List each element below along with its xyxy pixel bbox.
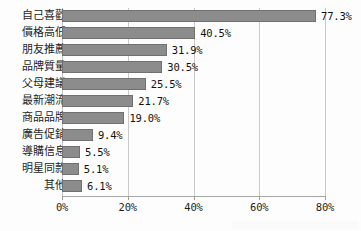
category-label: 最新潮流 [0, 93, 66, 109]
value-label: 5.5% [85, 145, 110, 159]
x-tick-label: 80% [305, 199, 345, 215]
bar-container [62, 10, 316, 22]
bar-container [62, 146, 80, 158]
category-label: 商品品牌 [0, 110, 66, 126]
value-label: 40.5% [200, 26, 231, 40]
category-label: 自己喜歡 [0, 8, 66, 24]
value-label: 21.7% [138, 94, 169, 108]
x-tick-label: 0% [42, 199, 82, 215]
bar-chart: 自己喜歡77.3%價格高低40.5%朋友推薦31.9%品牌質量30.5%父母建議… [0, 0, 361, 231]
bar-row: 價格高低40.5% [0, 25, 361, 42]
bar-row: 導購信息5.5% [0, 144, 361, 161]
value-label: 6.1% [87, 179, 112, 193]
value-label: 77.3% [321, 9, 352, 23]
bar [62, 95, 133, 107]
value-label: 25.5% [151, 77, 182, 91]
value-label: 30.5% [167, 60, 198, 74]
bar [62, 163, 79, 175]
bar-row: 其他6.1% [0, 178, 361, 195]
bar-container [62, 112, 124, 124]
caption-artifact [232, 221, 358, 229]
bar-row: 父母建議25.5% [0, 76, 361, 93]
value-label: 5.1% [84, 162, 109, 176]
bar-container [62, 78, 146, 90]
bar-container [62, 180, 82, 192]
bar-row: 自己喜歡77.3% [0, 8, 361, 25]
category-label: 品牌質量 [0, 59, 66, 75]
bar-container [62, 95, 133, 107]
value-label: 9.4% [98, 128, 123, 142]
category-label: 廣告促銷 [0, 127, 66, 143]
bar [62, 27, 195, 39]
x-tick-label: 60% [239, 199, 279, 215]
bar-container [62, 44, 167, 56]
bar-container [62, 27, 195, 39]
x-axis-tick-labels: 0%20%40%60%80% [0, 199, 361, 217]
bar-row: 明星同款5.1% [0, 161, 361, 178]
bar-container [62, 163, 79, 175]
bar [62, 78, 146, 90]
bar-rows: 自己喜歡77.3%價格高低40.5%朋友推薦31.9%品牌質量30.5%父母建議… [0, 8, 361, 195]
bar [62, 61, 162, 73]
x-tick-label: 20% [108, 199, 148, 215]
bar-row: 朋友推薦31.9% [0, 42, 361, 59]
bar [62, 146, 80, 158]
x-tick-label: 40% [174, 199, 214, 215]
value-label: 19.0% [129, 111, 160, 125]
category-label: 價格高低 [0, 25, 66, 41]
category-label: 朋友推薦 [0, 42, 66, 58]
category-label: 明星同款 [0, 161, 66, 177]
bar-row: 品牌質量30.5% [0, 59, 361, 76]
bar [62, 129, 93, 141]
bar-container [62, 61, 162, 73]
bar [62, 180, 82, 192]
bar [62, 112, 124, 124]
bar-row: 商品品牌19.0% [0, 110, 361, 127]
bar [62, 44, 167, 56]
category-label: 其他 [0, 178, 66, 194]
category-label: 導購信息 [0, 144, 66, 160]
bar [62, 10, 316, 22]
bar-row: 最新潮流21.7% [0, 93, 361, 110]
category-label: 父母建議 [0, 76, 66, 92]
value-label: 31.9% [172, 43, 203, 57]
bar-row: 廣告促銷9.4% [0, 127, 361, 144]
bar-container [62, 129, 93, 141]
